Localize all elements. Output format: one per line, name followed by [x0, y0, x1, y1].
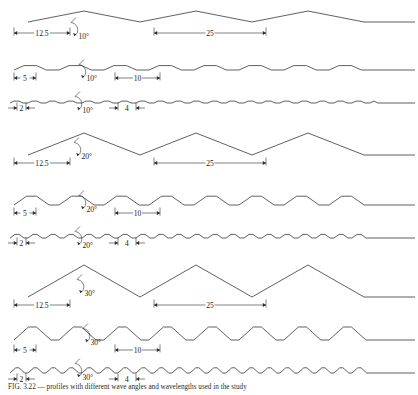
row-3-wavelength-dimension-label: 4 [125, 104, 129, 113]
figure-background [0, 0, 418, 395]
row-3-half-wavelength-dimension-label: 2 [20, 104, 24, 113]
row-7-wavelength-dimension-label: 25 [206, 301, 214, 310]
row-7-half-wavelength-dimension-label: 12.5 [35, 301, 48, 310]
row-4-half-wavelength-dimension-label: 12.5 [35, 159, 48, 168]
row-2-half-wavelength-dimension-label: 5 [23, 74, 27, 83]
row-7-angle-callout-label: 30° [85, 289, 96, 298]
row-8-wavelength-dimension-label: 10 [134, 346, 142, 355]
row-8-angle-callout-label: 30° [91, 338, 102, 347]
row-1-half-wavelength-dimension-label: 12.5 [35, 29, 48, 38]
row-6-half-wavelength-dimension-label: 2 [20, 239, 24, 248]
row-5-angle-callout-label: 20° [87, 205, 98, 214]
row-1-angle-callout-label: 10° [79, 32, 90, 41]
row-6-angle-callout-label: 20° [83, 241, 94, 250]
row-8-half-wavelength-dimension-label: 5 [23, 346, 27, 355]
row-9-angle-callout-label: 30° [83, 373, 94, 382]
row-1-wavelength-dimension-label: 25 [206, 29, 214, 38]
row-3-angle-callout-label: 10° [83, 106, 94, 115]
row-4-angle-callout-label: 20° [82, 152, 93, 161]
row-5-half-wavelength-dimension-label: 5 [23, 209, 27, 218]
row-6-wavelength-dimension-label: 4 [125, 239, 129, 248]
figure-caption: FIG. 3.22 — profiles with different wave… [8, 383, 412, 392]
row-2-wavelength-dimension-label: 10 [134, 74, 142, 83]
row-4-wavelength-dimension-label: 25 [206, 159, 214, 168]
roughness-profile-figure: 12.52510°51010°2410°12.52520°51020°2420°… [0, 0, 418, 395]
row-2-angle-callout-label: 10° [87, 74, 98, 83]
row-5-wavelength-dimension-label: 10 [134, 209, 142, 218]
